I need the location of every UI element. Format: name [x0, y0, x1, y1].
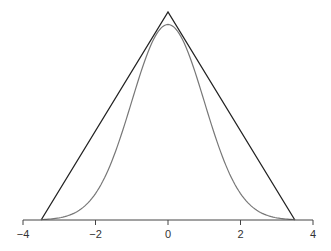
x-tick-label: 4	[310, 228, 316, 240]
x-tick-label: 2	[237, 228, 243, 240]
x-tick-label: 0	[165, 228, 171, 240]
plot-area	[41, 12, 295, 220]
x-tick-label: −4	[17, 228, 30, 240]
x-axis: −4−2024	[17, 220, 316, 240]
chart: −4−2024	[0, 0, 331, 251]
triangle-line	[41, 12, 295, 220]
x-tick-label: −2	[89, 228, 102, 240]
gaussian-curve	[41, 24, 295, 219]
